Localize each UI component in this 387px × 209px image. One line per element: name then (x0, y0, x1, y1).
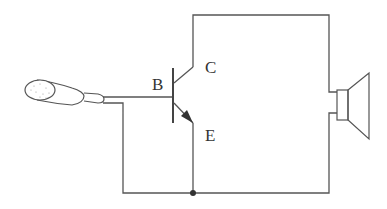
speaker-icon (337, 73, 369, 139)
circuit-diagram: B C E (0, 0, 387, 209)
wire-collector-top (193, 15, 337, 92)
label-collector: C (205, 58, 216, 77)
junction-dot (190, 190, 196, 196)
transistor-icon (173, 67, 193, 123)
microphone-icon (25, 80, 104, 105)
circuit-svg: B C E (0, 0, 387, 209)
label-base: B (152, 75, 163, 94)
wire-speaker-bottom (103, 103, 337, 193)
label-emitter: E (205, 126, 215, 145)
